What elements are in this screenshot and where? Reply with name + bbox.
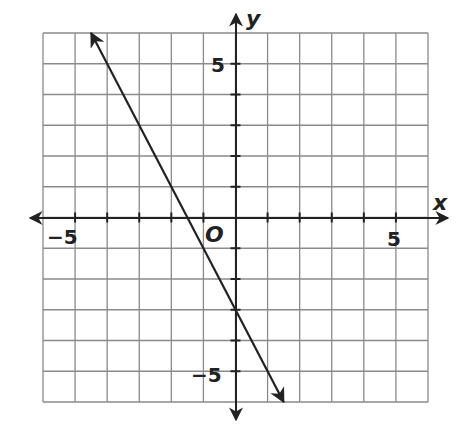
x-axis-label: x [432,190,448,215]
x-tick-label-pos5: 5 [387,227,401,251]
y-tick-label-neg5: −5 [191,363,222,387]
x-tick-label-neg5: −5 [47,225,78,249]
y-tick-label-pos5: 5 [211,53,225,77]
y-axis-label: y [246,6,262,31]
coordinate-plane: x y O −5 5 5 −5 [0,0,465,427]
origin-label: O [205,222,224,247]
